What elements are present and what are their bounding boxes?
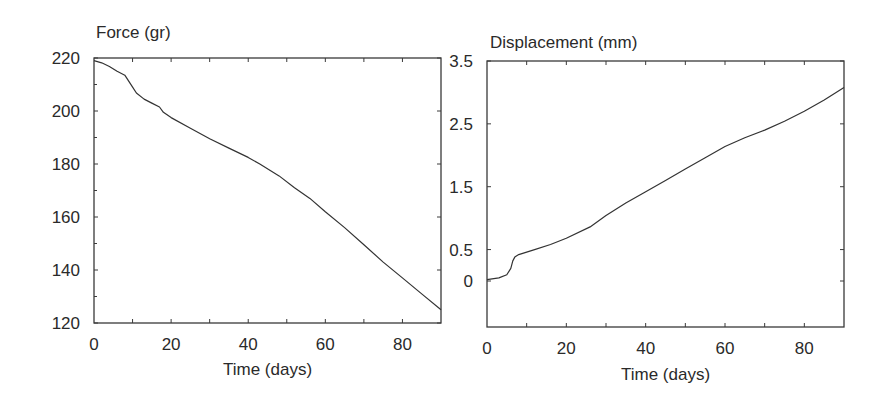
force-chart: 020406080120140160180200220Force (gr)Tim…	[52, 23, 441, 379]
y-tick-label: 200	[52, 102, 80, 121]
y-tick-label: 180	[52, 155, 80, 174]
figure: 020406080120140160180200220Force (gr)Tim…	[0, 0, 889, 410]
y-tick-label: 0.5	[449, 241, 473, 260]
x-tick-label: 80	[393, 335, 412, 354]
y-tick-label: 2.5	[449, 115, 473, 134]
x-tick-label: 60	[716, 339, 735, 358]
force-chart-title: Force (gr)	[96, 23, 171, 42]
x-tick-label: 60	[316, 335, 335, 354]
displacement-x-axis-label: Time (days)	[621, 365, 710, 384]
x-tick-label: 80	[795, 339, 814, 358]
y-tick-label: 3.5	[449, 52, 473, 71]
displacement-plot-frame	[487, 61, 844, 327]
displacement-chart-title: Displacement (mm)	[490, 33, 637, 52]
y-tick-label: 140	[52, 261, 80, 280]
displacement-y-axis: 00.51.52.53.5	[449, 52, 844, 291]
y-tick-label: 120	[52, 314, 80, 333]
x-tick-label: 40	[636, 339, 655, 358]
displacement-chart: 02040608000.51.52.53.5Displacement (mm)T…	[449, 33, 844, 384]
y-tick-label: 220	[52, 49, 80, 68]
y-tick-label: 1.5	[449, 178, 473, 197]
displacement-x-axis: 020406080	[482, 61, 814, 358]
y-tick-label: 160	[52, 208, 80, 227]
force-y-axis: 120140160180200220	[52, 49, 441, 333]
force-series-line	[94, 61, 441, 310]
x-tick-label: 0	[89, 335, 98, 354]
force-plot-frame	[94, 58, 441, 323]
x-tick-label: 40	[239, 335, 258, 354]
x-tick-label: 0	[482, 339, 491, 358]
y-tick-label: 0	[464, 272, 473, 291]
x-tick-label: 20	[557, 339, 576, 358]
displacement-series-line	[487, 87, 844, 279]
force-x-axis: 020406080	[89, 58, 412, 354]
x-tick-label: 20	[162, 335, 181, 354]
force-x-axis-label: Time (days)	[223, 360, 312, 379]
